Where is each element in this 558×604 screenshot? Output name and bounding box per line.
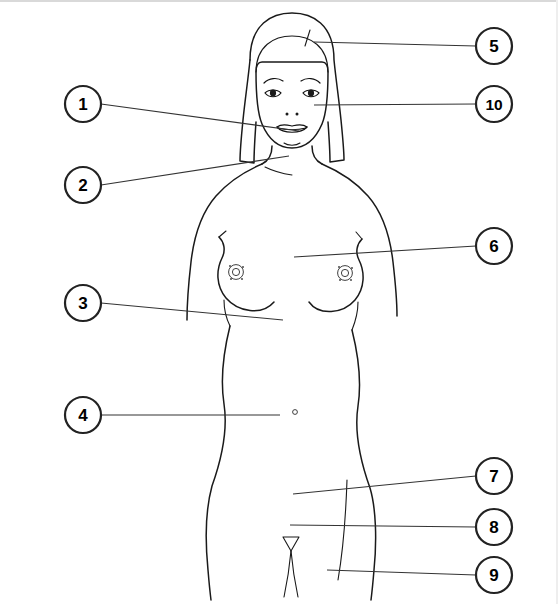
hair-outer-contour — [250, 13, 344, 162]
pelvis-group — [283, 480, 347, 597]
callout-5[interactable]: 5 — [476, 28, 512, 64]
leader-line-6 — [294, 246, 476, 257]
neck-left — [262, 146, 272, 164]
torso-right-waist-hip — [352, 330, 376, 600]
breast-right-tick — [356, 232, 362, 239]
leader-line-9 — [327, 570, 476, 575]
pubic-triangle — [283, 537, 299, 551]
chin-contour — [284, 143, 300, 145]
callout-label-2: 2 — [78, 176, 87, 195]
neck-shoulders-group — [187, 146, 397, 320]
right-eye-pupil — [308, 90, 314, 97]
callout-label-9: 9 — [489, 566, 498, 585]
callout-label-6: 6 — [489, 237, 498, 256]
inner-thigh-crease — [338, 480, 347, 580]
leader-line-2 — [101, 156, 289, 185]
callout-3[interactable]: 3 — [65, 285, 101, 321]
callout-label-10: 10 — [485, 96, 502, 113]
leader-line-5 — [314, 42, 476, 46]
callout-9[interactable]: 9 — [476, 557, 512, 593]
callout-label-3: 3 — [78, 294, 87, 313]
navel-mark — [293, 410, 298, 415]
callout-label-5: 5 — [489, 37, 498, 56]
left-areola-group — [229, 265, 244, 280]
perineal-line-right — [291, 551, 298, 597]
callout-label-4: 4 — [78, 406, 88, 425]
left-eyebrow — [264, 79, 283, 83]
callout-label-8: 8 — [489, 518, 498, 537]
breast-left-tick — [219, 231, 226, 237]
hair-left-strand — [240, 60, 256, 163]
right-nostril — [296, 113, 299, 116]
callout-4[interactable]: 4 — [65, 397, 101, 433]
left-eye-pupil — [270, 90, 276, 97]
perineal-line-left — [284, 551, 291, 597]
leader-line-3 — [101, 303, 283, 320]
torso-left-waist-hip — [206, 326, 230, 600]
leader-lines-group — [101, 42, 476, 575]
breast-left-contour — [218, 237, 274, 311]
callout-1[interactable]: 1 — [65, 86, 101, 122]
figure-canvas: 1 2 3 4 5 6 7 8 — [0, 0, 558, 604]
left-nostril — [286, 113, 289, 116]
callout-label-7: 7 — [489, 467, 498, 486]
clavicle-left — [265, 167, 292, 175]
leader-line-1 — [101, 104, 299, 131]
callout-8[interactable]: 8 — [476, 509, 512, 545]
neck-right — [312, 146, 322, 164]
breast-left-fold — [224, 300, 230, 326]
callout-10[interactable]: 10 — [476, 86, 512, 122]
callout-label-1: 1 — [78, 95, 87, 114]
hairline-inner — [256, 36, 328, 72]
breast-right-contour — [309, 239, 363, 312]
right-eyebrow — [301, 79, 320, 83]
leader-line-10 — [314, 104, 476, 105]
callout-2[interactable]: 2 — [65, 167, 101, 203]
upper-lip — [277, 125, 307, 127]
right-areola-group — [338, 266, 353, 281]
callout-7[interactable]: 7 — [476, 458, 512, 494]
leader-line-8 — [290, 525, 476, 527]
leader-line-7 — [293, 476, 476, 494]
callout-6[interactable]: 6 — [476, 228, 512, 264]
breast-right-fold — [352, 302, 358, 330]
anatomy-diagram: 1 2 3 4 5 6 7 8 — [0, 0, 558, 604]
